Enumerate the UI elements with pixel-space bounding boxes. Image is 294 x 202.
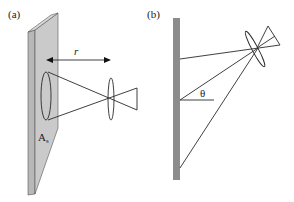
ray-middle [180,48,258,100]
source-bar [173,18,180,180]
slab-front-face [35,13,58,194]
detector-b [257,26,280,48]
ray-top [180,45,280,59]
arrowhead-right-icon [104,57,111,63]
angle-label: θ [200,87,205,99]
panel-b-label: (b) [147,8,160,21]
panel-a-label: (a) [8,8,21,21]
diagram-canvas: (a) r As (b) θ [0,0,294,202]
panel-b: (b) θ [147,8,280,180]
ray-bottom [180,48,258,168]
panel-a: (a) r As [8,8,137,195]
distance-label: r [74,45,79,57]
slab-side-face [28,30,35,195]
